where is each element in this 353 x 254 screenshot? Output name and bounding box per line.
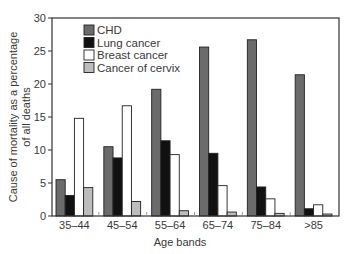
bar-breast-cancer-5 xyxy=(314,205,323,216)
bar-lung-cancer-3 xyxy=(209,153,218,216)
y-tick-label: 20 xyxy=(34,78,46,90)
y-tick-label: 10 xyxy=(34,144,46,156)
legend-swatch xyxy=(84,25,94,35)
legend-label: Cancer of cervix xyxy=(97,62,180,74)
bar-chd-0 xyxy=(56,180,65,216)
y-axis-ticks: 051015202530 xyxy=(34,12,52,222)
bar-chd-4 xyxy=(247,40,256,216)
bar-lung-cancer-4 xyxy=(257,187,266,216)
bar-chd-1 xyxy=(104,147,113,216)
legend-swatch xyxy=(84,38,94,48)
legend-swatch xyxy=(84,50,94,60)
y-axis-label: Cause of mortality as a percentage of al… xyxy=(7,32,32,203)
bar-breast-cancer-1 xyxy=(122,106,131,216)
x-tick-label: 55–64 xyxy=(155,219,186,231)
x-tick-label: >85 xyxy=(304,219,323,231)
bar-chd-5 xyxy=(295,75,304,216)
x-tick-label: 45–54 xyxy=(107,219,138,231)
y-tick-label: 15 xyxy=(34,111,46,123)
y-tick-label: 30 xyxy=(34,12,46,24)
y-tick-label: 0 xyxy=(40,210,46,222)
bar-lung-cancer-0 xyxy=(65,196,74,216)
y-axis-label-line-2: of all deaths xyxy=(20,87,32,147)
bar-chd-3 xyxy=(200,47,209,216)
bar-chd-2 xyxy=(152,89,161,216)
x-tick-label: 35–44 xyxy=(59,219,90,231)
legend-label: Lung cancer xyxy=(97,37,160,49)
bar-breast-cancer-4 xyxy=(266,199,275,216)
bar-lung-cancer-1 xyxy=(113,158,122,216)
bar-breast-cancer-2 xyxy=(170,155,179,216)
bar-breast-cancer-0 xyxy=(74,118,83,216)
bar-cancer-of-cervix-0 xyxy=(84,188,93,216)
bar-breast-cancer-3 xyxy=(218,186,227,216)
bar-lung-cancer-5 xyxy=(304,209,313,216)
mortality-bar-chart: Cause of mortality as a percentage of al… xyxy=(0,0,353,254)
y-tick-label: 5 xyxy=(40,177,46,189)
x-axis-label: Age bands xyxy=(154,236,207,248)
x-tick-label: 65–74 xyxy=(203,219,234,231)
legend-label: Breast cancer xyxy=(97,49,168,61)
legend: CHDLung cancerBreast cancerCancer of cer… xyxy=(84,24,180,74)
bar-cancer-of-cervix-2 xyxy=(179,211,188,216)
y-tick-label: 25 xyxy=(34,45,46,57)
legend-swatch xyxy=(84,63,94,73)
bar-cancer-of-cervix-1 xyxy=(131,201,140,216)
y-axis-label-line-1: Cause of mortality as a percentage xyxy=(7,32,19,203)
bar-lung-cancer-2 xyxy=(161,141,170,216)
x-tick-label: 75–84 xyxy=(250,219,281,231)
legend-label: CHD xyxy=(97,24,122,36)
